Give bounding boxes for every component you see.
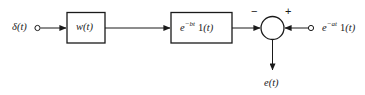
diagram-canvas (0, 0, 365, 95)
block-diagram: δ(t) w(t) e−bt1(t) e−at1(t) − + e(t) (0, 0, 365, 95)
input-exp-at-label: e−at1(t) (322, 21, 355, 33)
output-label: e(t) (264, 78, 279, 89)
block-exp-bt-label: e−bt1(t) (180, 21, 213, 33)
input-exp-at-step-argument: (t) (345, 22, 355, 33)
input-source-label: δ(t) (12, 22, 27, 33)
summing-junction-plus-sign: + (285, 6, 291, 17)
block-w-symbol: w (76, 21, 83, 32)
input-exp-at-exponent: −at (327, 20, 337, 28)
summing-junction-circle (261, 17, 284, 40)
right-input-terminal-circle (308, 25, 313, 30)
block-w-label: w(t) (76, 22, 93, 33)
input-terminal-circle (35, 25, 40, 30)
output-argument: (t) (269, 77, 279, 88)
block-exp-bt-exponent: −bt (185, 20, 195, 28)
block-w-argument: (t) (83, 21, 93, 32)
block-exp-bt-step-argument: (t) (203, 22, 213, 33)
summing-junction-minus-sign: − (251, 6, 257, 17)
input-source-argument: (t) (17, 21, 27, 32)
